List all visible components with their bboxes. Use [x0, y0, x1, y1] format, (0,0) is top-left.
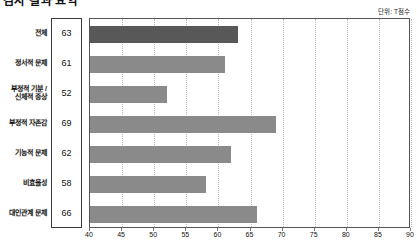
category-label-line: 전체: [0, 29, 47, 38]
gridline: [315, 19, 316, 227]
gridline: [411, 19, 412, 227]
category-value: 52: [52, 88, 81, 98]
chart-page: 검사 결과 요약 단위: T점수 전체정서적 문제부정적 기분 /신체적 증상부…: [0, 0, 417, 251]
x-axis-tickmark: [346, 228, 347, 231]
category-label-line: 신체적 증상: [0, 93, 47, 102]
category-label-line: 기능적 문제: [0, 149, 47, 158]
category-value: 63: [52, 28, 81, 38]
category-label-column: 전체정서적 문제부정적 기분 /신체적 증상부정적 자존감기능적 문제비효율성대…: [0, 18, 51, 228]
category-label: 대인관계 문제: [0, 209, 47, 218]
bar: [90, 116, 276, 133]
x-axis-tick-label: 85: [374, 231, 382, 238]
x-axis-tickmark: [282, 228, 283, 231]
category-label: 기능적 문제: [0, 149, 47, 158]
gridline: [347, 19, 348, 227]
x-axis-tickmark: [89, 228, 90, 231]
x-axis-tick-label: 80: [342, 231, 350, 238]
x-axis-tickmark: [185, 228, 186, 231]
x-axis-tick-label: 65: [246, 231, 254, 238]
x-axis-tick-label: 40: [85, 231, 93, 238]
x-axis-tick-label: 45: [117, 231, 125, 238]
category-label-line: 비효율성: [0, 179, 47, 188]
x-axis-tick-labels: 4045505560657075808590: [89, 231, 410, 245]
page-title: 검사 결과 요약: [3, 0, 78, 8]
x-axis-tickmark: [250, 228, 251, 231]
category-label: 부정적 자존감: [0, 119, 47, 128]
bar: [90, 86, 167, 103]
category-value: 58: [52, 178, 81, 188]
category-label-line: 대인관계 문제: [0, 209, 47, 218]
x-axis-tick-label: 90: [406, 231, 414, 238]
bar: [90, 56, 225, 73]
x-axis-tickmark: [153, 228, 154, 231]
bar: [90, 146, 231, 163]
x-axis-tick-label: 70: [278, 231, 286, 238]
bar: [90, 26, 238, 43]
x-axis-tick-label: 75: [310, 231, 318, 238]
bar: [90, 176, 206, 193]
value-column: 63615269625866: [51, 18, 82, 228]
x-axis-tickmark: [217, 228, 218, 231]
x-axis-tickmark: [121, 228, 122, 231]
category-value: 66: [52, 208, 81, 218]
x-axis-tick-label: 50: [149, 231, 157, 238]
category-label: 정서적 문제: [0, 59, 47, 68]
category-label-line: 정서적 문제: [0, 59, 47, 68]
x-axis-tickmark: [410, 228, 411, 231]
gridline: [379, 19, 380, 227]
unit-note: 단위: T점수: [378, 6, 410, 16]
x-axis-tick-label: 55: [181, 231, 189, 238]
category-value: 69: [52, 118, 81, 128]
plot-area: [89, 18, 410, 228]
category-value: 62: [52, 148, 81, 158]
category-label: 부정적 기분 /신체적 증상: [0, 85, 47, 102]
gridline: [283, 19, 284, 227]
bar: [90, 206, 257, 223]
category-label-line: 부정적 자존감: [0, 119, 47, 128]
x-axis-tick-label: 60: [213, 231, 221, 238]
category-label-line: 부정적 기분 /: [0, 85, 47, 94]
x-axis-tickmark: [378, 228, 379, 231]
category-label: 비효율성: [0, 179, 47, 188]
x-axis-tickmark: [314, 228, 315, 231]
category-label: 전체: [0, 29, 47, 38]
category-value: 61: [52, 58, 81, 68]
